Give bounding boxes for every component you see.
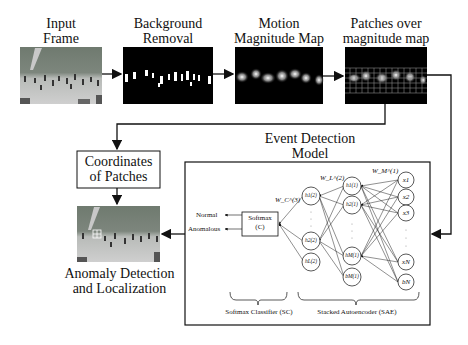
event-detection-title: Event Detection Model [240, 131, 380, 161]
node-hL-2: hL(2) [302, 258, 320, 264]
braces [230, 292, 419, 305]
background-removal-image [123, 47, 213, 104]
motion-magnitude-image [235, 47, 324, 104]
input-frame-image [20, 47, 102, 104]
node-h1-1: h1(1) [343, 182, 361, 188]
label-line: Event Detection [240, 131, 380, 146]
node-h2-2: h2(2) [302, 237, 320, 243]
softmax-classifier-label: Softmax Classifier (SC) [218, 308, 300, 316]
patches-image [345, 47, 427, 104]
anomaly-localization-image [77, 206, 160, 262]
label-line: Coordinates [77, 154, 160, 169]
node-h1-2: h1(2) [302, 192, 320, 198]
ellipsis-dots [310, 211, 406, 246]
label-line: Softmax [242, 214, 278, 223]
node-x1: x1 [398, 176, 414, 184]
label-line: (C) [242, 223, 278, 232]
anomaly-label: Anomaly Detection and Localization [62, 266, 177, 296]
weight-wm: W_M^(1) [372, 167, 398, 175]
node-bM-1: bM(1) [343, 273, 361, 279]
softmax-text: Softmax (C) [242, 214, 278, 232]
weight-wc: W_C^(3) [275, 196, 300, 204]
stacked-autoencoder-label: Stacked Autoencoder (SAE) [310, 308, 404, 316]
node-bN: bN [398, 278, 414, 286]
node-x3: x3 [398, 209, 414, 217]
coordinates-label: Coordinates of Patches [77, 154, 160, 184]
node-xN: xN [398, 258, 414, 266]
output-normal: Normal [196, 211, 217, 219]
label-line: Model [240, 146, 380, 161]
output-anomalous: Anomalous [188, 225, 220, 233]
label-line: Anomaly Detection [62, 266, 177, 281]
input-layer [398, 172, 414, 290]
node-h2-1: h2(1) [343, 201, 361, 207]
label-line: and Localization [62, 281, 177, 296]
node-x2: x2 [398, 193, 414, 201]
weight-wl: W_L^(2) [320, 174, 344, 182]
label-line: of Patches [77, 169, 160, 184]
node-hM-1: hM(1) [343, 252, 361, 258]
